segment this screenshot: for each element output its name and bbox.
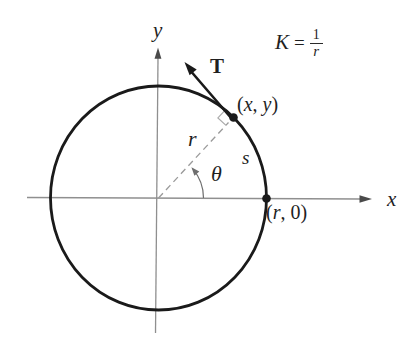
y-axis: [156, 58, 159, 333]
formula-denominator: r: [313, 44, 319, 60]
x-axis-arrowhead-icon: [360, 195, 373, 202]
point-r0-separator: ,: [280, 201, 290, 223]
diagram-canvas: [0, 0, 418, 347]
formula-equals: =: [293, 32, 306, 54]
point-xy-x: x: [244, 93, 253, 115]
formula-lhs: K: [275, 30, 289, 55]
point-r0-label: (r, 0): [266, 201, 307, 223]
x-axis-label: x: [387, 188, 396, 211]
arc-length-label: s: [242, 148, 249, 169]
formula-numerator: 1: [310, 28, 323, 44]
point-r0-close-paren: ): [300, 201, 307, 223]
point-xy-close-paren: ): [271, 93, 278, 115]
curvature-circle-figure: y x T (x, y) r s θ (r, 0) K = 1 r: [0, 0, 418, 347]
tangent-vector-arrowhead-icon: [185, 62, 197, 75]
y-axis-label: y: [153, 19, 162, 42]
x-axis: [27, 198, 361, 200]
point-xy-label: (x, y): [237, 93, 278, 115]
tangent-vector-line: [192, 73, 232, 120]
y-axis-arrowhead-icon: [155, 48, 162, 59]
tangent-vector-label: T: [210, 55, 224, 78]
point-xy-open-paren: (: [237, 93, 244, 115]
point-xy-separator: ,: [253, 93, 263, 115]
curvature-formula: K = 1 r: [275, 27, 323, 59]
theta-arc-arrowhead-icon: [191, 167, 199, 176]
point-r0-zero: 0: [290, 201, 300, 223]
angle-theta-label: θ: [211, 162, 222, 186]
formula-fraction: 1 r: [310, 28, 323, 60]
point-r0-open-paren: (: [266, 201, 273, 223]
radius-label: r: [188, 127, 197, 151]
